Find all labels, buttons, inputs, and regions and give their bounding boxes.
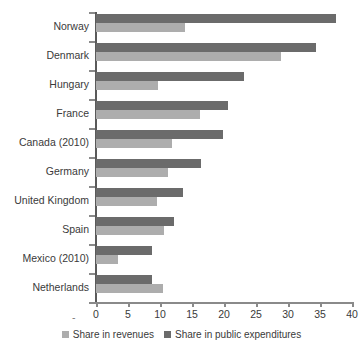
bar-chart: NorwayDenmarkHungaryFranceCanada (2010)G… xyxy=(0,0,363,348)
x-axis-tick xyxy=(224,302,226,307)
bar-public-expenditures xyxy=(96,159,201,168)
bar-public-expenditures xyxy=(96,217,174,226)
category-label: Hungary xyxy=(0,78,89,90)
bar-revenues xyxy=(96,197,157,206)
bar-group xyxy=(96,12,352,41)
category-label-text: France xyxy=(56,107,89,119)
bar-revenues xyxy=(96,226,164,235)
category-label-text: Netherlands xyxy=(32,281,89,293)
x-axis-tick-label: 0 xyxy=(81,308,111,320)
category-label-text: Hungary xyxy=(49,78,89,90)
category-label: Germany xyxy=(0,165,89,177)
bar-group xyxy=(96,244,352,273)
bar-group xyxy=(96,215,352,244)
y-axis-tick xyxy=(89,273,95,275)
y-axis-tick xyxy=(89,157,95,159)
bar-revenues xyxy=(96,81,158,90)
category-label: United Kingdom xyxy=(0,194,89,206)
y-axis-tick xyxy=(89,215,95,217)
bar-group xyxy=(96,128,352,157)
category-label-text: Germany xyxy=(46,165,89,177)
x-axis-tick-label: 25 xyxy=(241,308,271,320)
y-axis-tick xyxy=(89,186,95,188)
legend-item[interactable]: Share in revenues xyxy=(62,329,154,340)
category-label: Mexico (2010) xyxy=(0,252,89,264)
bar-revenues xyxy=(96,255,118,264)
x-axis-tick xyxy=(256,302,258,307)
bar-public-expenditures xyxy=(96,14,336,23)
x-axis-tick-label: 30 xyxy=(273,308,303,320)
bar-group xyxy=(96,99,352,128)
bar-group xyxy=(96,41,352,70)
bar-revenues xyxy=(96,52,281,61)
x-axis-tick-label: 35 xyxy=(305,308,335,320)
y-axis-tick xyxy=(89,128,95,130)
x-axis-tick-label: 10 xyxy=(145,308,175,320)
y-axis-tick xyxy=(89,99,95,101)
y-axis-tick xyxy=(89,302,95,304)
bar-group xyxy=(96,70,352,99)
x-axis-tick xyxy=(128,302,130,307)
bar-public-expenditures xyxy=(96,188,183,197)
category-label: Netherlands xyxy=(0,281,89,293)
x-axis-tick-label: 40 xyxy=(337,308,363,320)
x-axis-tick-label: 5 xyxy=(113,308,143,320)
x-axis-tick xyxy=(160,302,162,307)
legend-label: Share in public expenditures xyxy=(175,329,301,340)
bar-public-expenditures xyxy=(96,246,152,255)
chart-legend: Share in revenuesShare in public expendi… xyxy=(0,329,363,340)
legend-swatch-icon xyxy=(62,331,69,338)
bar-revenues xyxy=(96,139,172,148)
category-label-text: Spain xyxy=(62,223,89,235)
bar-revenues xyxy=(96,284,163,293)
category-label-text: Mexico (2010) xyxy=(22,252,89,264)
bar-revenues xyxy=(96,110,200,119)
y-axis-tick xyxy=(89,12,95,14)
bar-public-expenditures xyxy=(96,101,228,110)
bar-public-expenditures xyxy=(96,72,244,81)
legend-item[interactable]: Share in public expenditures xyxy=(164,329,301,340)
legend-label: Share in revenues xyxy=(73,329,154,340)
category-label-text: Canada (2010) xyxy=(19,136,89,148)
x-axis-tick xyxy=(288,302,290,307)
x-axis-tick-label: 20 xyxy=(209,308,239,320)
plot-area xyxy=(96,12,352,302)
legend-swatch-icon xyxy=(164,331,171,338)
category-label: France xyxy=(0,107,89,119)
x-axis-tick-label: 15 xyxy=(177,308,207,320)
y-axis-tick xyxy=(89,41,95,43)
bar-public-expenditures xyxy=(96,275,152,284)
category-label: Norway xyxy=(0,20,89,32)
bar-revenues xyxy=(96,23,185,32)
y-axis-tick xyxy=(89,244,95,246)
y-axis-tick xyxy=(89,70,95,72)
bar-group xyxy=(96,157,352,186)
category-label-text: Norway xyxy=(53,20,89,32)
bar-group xyxy=(96,273,352,302)
category-label: Denmark xyxy=(0,49,89,61)
category-label-text: Denmark xyxy=(46,49,89,61)
bar-revenues xyxy=(96,168,168,177)
x-axis-tick xyxy=(320,302,322,307)
bar-public-expenditures xyxy=(96,130,223,139)
axis-prefix-marker: - xyxy=(72,311,76,323)
x-axis-tick xyxy=(96,302,98,307)
category-label: Spain xyxy=(0,223,89,235)
bar-group xyxy=(96,186,352,215)
category-label-text: United Kingdom xyxy=(14,194,89,206)
bar-public-expenditures xyxy=(96,43,316,52)
x-axis-tick xyxy=(352,302,354,307)
category-label: Canada (2010) xyxy=(0,136,89,148)
x-axis-tick xyxy=(192,302,194,307)
